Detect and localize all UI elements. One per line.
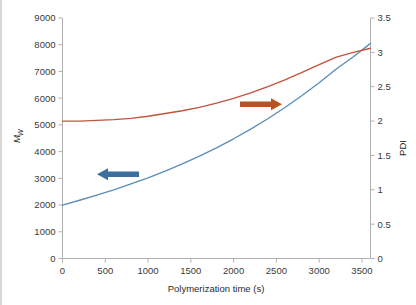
left-tick-label: 3000 [34,173,55,184]
right-tick-label: 2.5 [378,81,391,92]
right-tick-label: 2 [378,115,383,126]
x-tick-label: 0 [60,265,65,276]
x-tick-label: 3000 [309,265,330,276]
left-tick-label: 0 [50,253,55,264]
chart-background [2,0,416,305]
left-tick-label: 4000 [34,146,55,157]
right-tick-label: 0 [378,253,383,264]
right-tick-label: 1 [378,184,383,195]
x-tick-label: 500 [97,265,113,276]
right-axis-title: PDI [397,140,408,156]
left-tick-label: 5000 [34,119,55,130]
x-tick-label: 3500 [351,265,372,276]
left-tick-label: 9000 [34,12,55,23]
left-axis-title-subscript: w [14,128,25,136]
right-tick-label: 1.5 [378,150,391,161]
right-axis-title-text: PDI [397,140,408,156]
right-tick-label: 3.5 [378,12,391,23]
right-tick-label: 3 [378,47,383,58]
left-tick-label: 2000 [34,199,55,210]
left-tick-label: 7000 [34,66,55,77]
mw-arrow-shaft [106,172,139,178]
left-tick-label: 1000 [34,226,55,237]
pdi-arrow-shaft [240,102,273,108]
left-tick-label: 8000 [34,39,55,50]
left-tick-label: 6000 [34,93,55,104]
x-tick-label: 2500 [266,265,287,276]
x-tick-label: 1000 [137,265,158,276]
dual-axis-line-chart: 0100020003000400050006000700080009000 M … [2,0,416,305]
x-axis-title: Polymerization time (s) [168,283,265,294]
chart-figure: 0100020003000400050006000700080009000 M … [0,0,416,305]
right-tick-label: 0.5 [378,219,391,230]
x-tick-label: 2000 [223,265,244,276]
x-tick-label: 1500 [180,265,201,276]
